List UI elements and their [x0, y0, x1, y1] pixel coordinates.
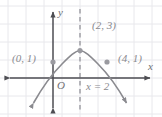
y-axis-label: y — [58, 7, 63, 18]
parabola-graph-figure: (2, 3) (0, 1) (4, 1) x y O x = 2 — [0, 0, 162, 117]
point-label-right: (4, 1) — [118, 53, 142, 64]
axis-of-symmetry-label: x = 2 — [86, 81, 109, 92]
point-marker-y-intercept — [50, 59, 55, 64]
point-label-vertex: (2, 3) — [92, 20, 116, 31]
origin-label: O — [57, 80, 65, 91]
x-axis-label: x — [148, 61, 153, 72]
point-marker-vertex — [77, 48, 82, 53]
point-marker-right — [104, 59, 109, 64]
point-label-y-intercept: (0, 1) — [12, 53, 36, 64]
